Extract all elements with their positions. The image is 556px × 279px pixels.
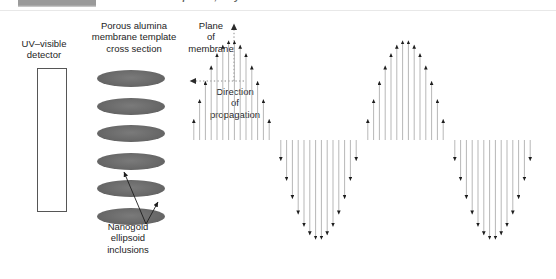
template-label-line1: Porous alumina	[82, 20, 186, 31]
leader-line-lower	[146, 202, 158, 224]
diagram-canvas: are spheres, only one resonance is detec…	[0, 0, 556, 279]
membrane-template-label: Porous alumina membrane template cross s…	[82, 20, 186, 54]
nanogold-label-line3: inclusions	[84, 244, 172, 255]
nanogold-ellipsoid-1	[97, 70, 165, 87]
template-label-line3: cross section	[82, 43, 186, 54]
nanogold-ellipsoid-3	[97, 125, 165, 142]
template-label-line2: membrane template	[82, 31, 186, 42]
detector-label-line1: UV–visible	[8, 38, 80, 49]
uv-visible-detector-label: UV–visible detector	[8, 38, 80, 61]
uv-visible-detector-rect	[37, 68, 67, 212]
nanogold-ellipsoid-4	[97, 153, 165, 170]
nanogold-leader-lines	[90, 168, 186, 226]
leader-line-upper	[124, 172, 146, 224]
nanogold-inclusions-label: Nanogold ellipsoid inclusions	[84, 221, 172, 255]
transverse-wave-arrows	[176, 26, 548, 254]
nanogold-label-line2: ellipsoid	[84, 232, 172, 243]
detector-label-line2: detector	[8, 49, 80, 60]
nanogold-ellipsoid-2	[97, 98, 165, 115]
divider	[0, 10, 556, 11]
caption-partial-text: are spheres, only one resonance is detec…	[160, 0, 490, 2]
